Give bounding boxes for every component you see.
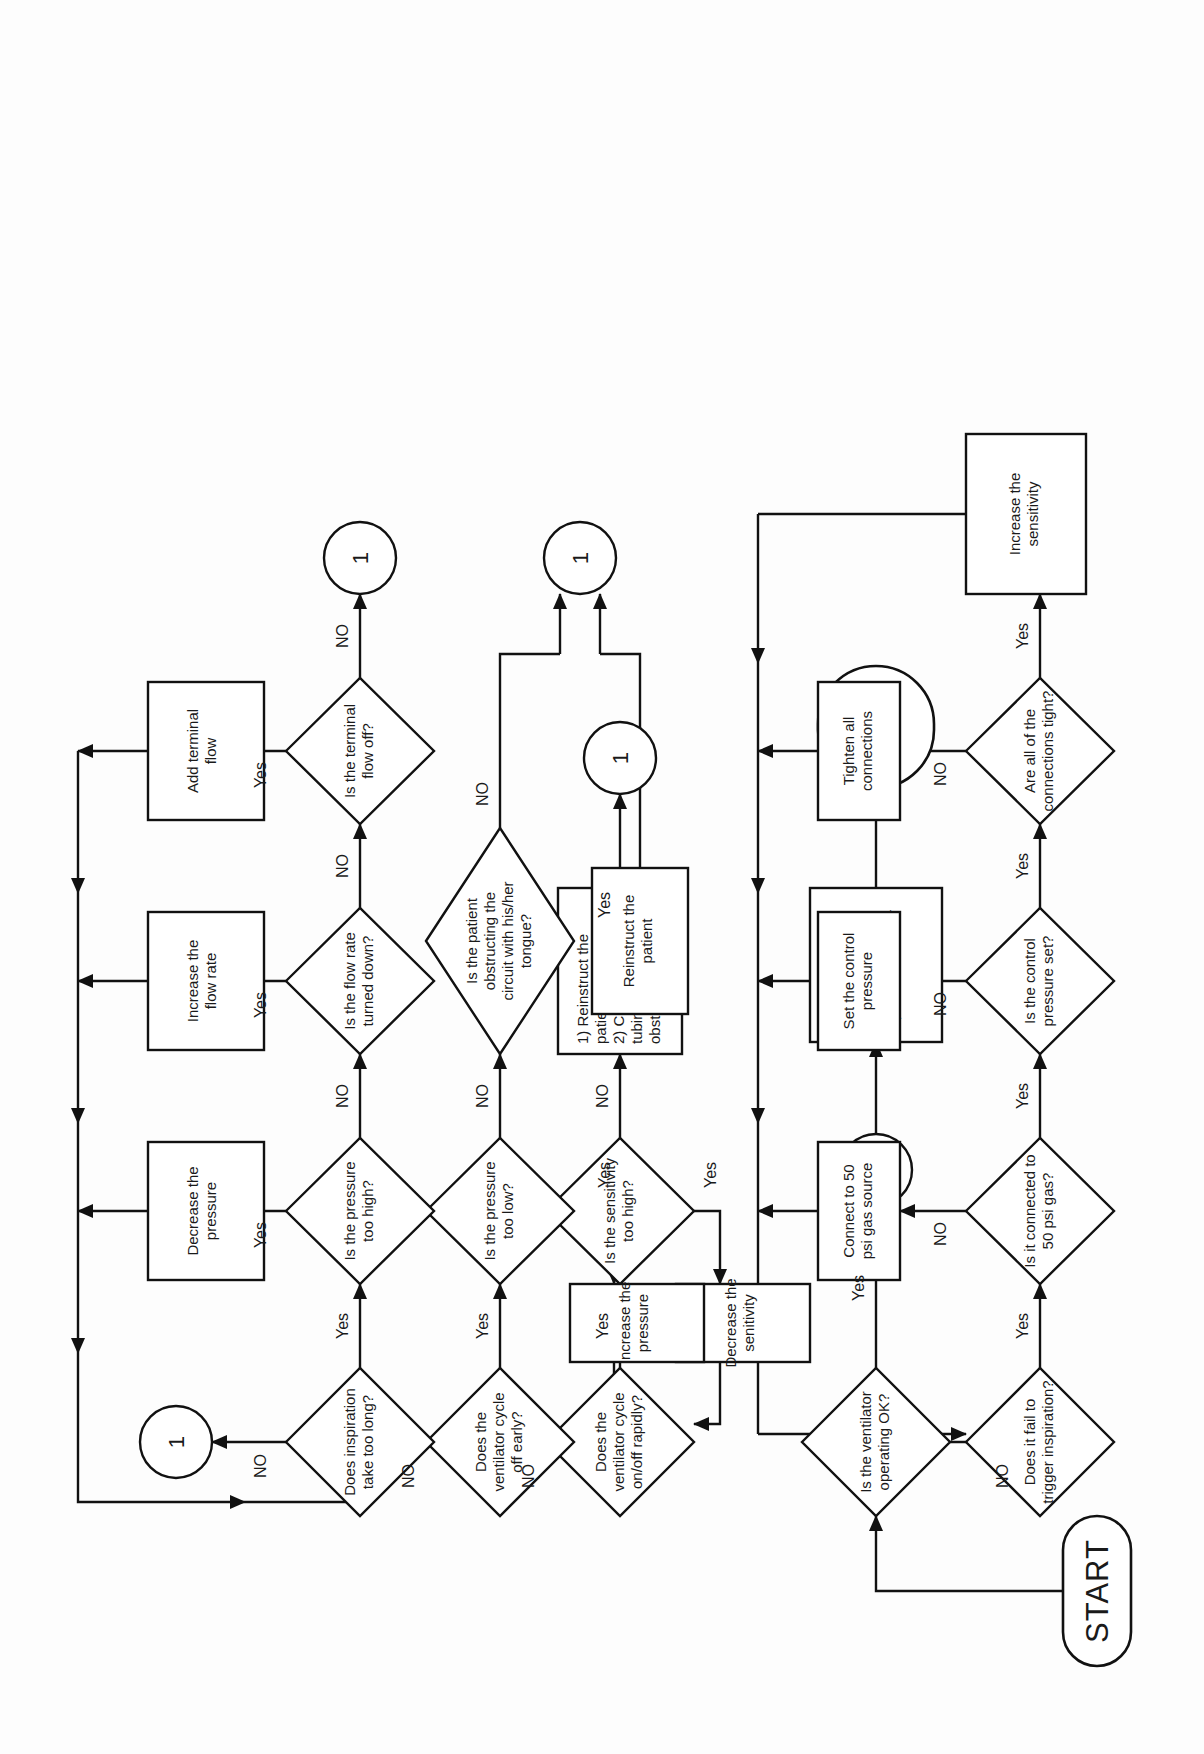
node-decpress-line2: pressure — [202, 1182, 219, 1240]
node-increase-sensitivity: Increase the sensitivity — [966, 434, 1086, 594]
node-addterm-line2: flow — [202, 738, 219, 765]
node-tighten-line1: Tighten all — [840, 717, 857, 786]
edge-label-insplong-no: NO — [252, 1454, 269, 1478]
node-connector-obstruction: 1 — [544, 522, 616, 594]
node-incpress-line2: pressure — [634, 1294, 651, 1352]
node-obstruct-line1: Is the patient — [463, 897, 480, 984]
node-connector-terminal: 1 — [324, 522, 396, 594]
node-obstruct-line3: circuit with his/her — [499, 881, 516, 1000]
edge-label-termoff-no: NO — [334, 624, 351, 648]
node-cycleearly-line2: ventilator cycle — [490, 1392, 507, 1491]
flowchart-svg: START Is the ventilator operating OK? 1 … — [0, 0, 1204, 1754]
node-connector-inspiration-label: 1 — [164, 1436, 189, 1448]
node-presslow-line2: too low? — [499, 1183, 516, 1239]
edge-label-flowdown-yes: Yes — [252, 992, 269, 1018]
node-cyclerapid-line3: on/off rapidly? — [628, 1395, 645, 1489]
node-inspiration-too-long: Does inspiration take too long? — [286, 1368, 434, 1516]
node-cyclerapid-line2: ventilator cycle — [610, 1392, 627, 1491]
node-incpress-line1: Increase the — [616, 1282, 633, 1365]
node-tighten-line2: connections — [858, 711, 875, 791]
node-decpress-line1: Decrease the — [184, 1166, 201, 1255]
node-trigger-line1: Does it fail to — [1021, 1399, 1038, 1486]
node-insplong-line2: take too long? — [359, 1395, 376, 1489]
node-connect50-line1: Connect to 50 — [840, 1164, 857, 1257]
edge-label-cyclerapid-yes: Yes — [594, 1313, 611, 1339]
node-setpress-line2: pressure — [858, 952, 875, 1010]
edge-start-to-vent-ok — [876, 1516, 1063, 1591]
node-control-pressure-set: Is the control pressure set? — [966, 908, 1114, 1054]
node-connect-50psi-source: Connect to 50 psi gas source — [818, 1142, 900, 1280]
rail-top-arrowhead-down — [230, 1495, 246, 1509]
edge-label-trigger-yes: Yes — [1014, 1313, 1031, 1339]
node-start: START — [1063, 1516, 1131, 1666]
node-pressure-low: Is the pressure too low? — [426, 1138, 574, 1284]
edge-label-connstight-yes: Yes — [1014, 623, 1031, 649]
rail-top-arrowhead-3 — [71, 1338, 85, 1354]
edge-label-presslow-yes: Yes — [596, 1162, 613, 1188]
edge-label-obstruct-no: NO — [474, 782, 491, 806]
node-decsens-line2: senitivity — [740, 1294, 757, 1352]
rail-top-arrowhead-2 — [71, 1108, 85, 1124]
node-termoff-line2: flow off? — [359, 723, 376, 779]
node-insplong-line1: Does inspiration — [341, 1388, 358, 1496]
edge-label-insplong-yes: Yes — [334, 1313, 351, 1339]
node-connstight-line2: connections tight? — [1039, 691, 1056, 812]
node-tighten-connections: Tighten all connections — [818, 682, 900, 820]
edge-label-flowdown-no: NO — [334, 854, 351, 878]
node-obstruct-line2: obstructing the — [481, 892, 498, 990]
node-connector-sensitivity: 1 — [584, 722, 656, 794]
node-obstruct-line4: tongue? — [517, 914, 534, 968]
node-connstight-line1: Are all of the — [1021, 709, 1038, 793]
edge-decsens-return — [694, 1362, 720, 1424]
node-gas50-line2: 50 psi gas? — [1039, 1173, 1056, 1250]
node-presslow-line1: Is the pressure — [481, 1161, 498, 1260]
node-reinstruct-patient: Reinstruct the patient — [592, 868, 688, 1014]
node-connector-sensitivity-label: 1 — [608, 752, 633, 764]
node-vent-ok-line2: operating OK? — [875, 1394, 892, 1491]
node-cyclerapid-line1: Does the — [592, 1412, 609, 1472]
edge-label-cycleearly-yes: Yes — [474, 1313, 491, 1339]
edge-label-vent-ok-no: NO — [994, 1464, 1011, 1488]
node-setpress-line1: Set the control — [840, 933, 857, 1030]
edge-label-cycleearly-no: NO — [400, 1464, 417, 1488]
edge-label-connstight-no: NO — [932, 762, 949, 786]
rail-arrowhead-1 — [751, 648, 765, 664]
edge-label-obstruct-yes: Yes — [596, 892, 613, 918]
node-connector-terminal-label: 1 — [348, 552, 373, 564]
node-addterm-line1: Add terminal — [184, 709, 201, 793]
rail-arrowhead-2 — [751, 878, 765, 894]
node-flowdown-line1: Is the flow rate — [341, 932, 358, 1030]
node-reinstruct-line1: Reinstruct the — [620, 895, 637, 988]
edge-label-ctrlpress-no: NO — [932, 992, 949, 1016]
node-flowdown-line2: turned down? — [359, 936, 376, 1027]
node-pressure-high: Is the pressure too high? — [286, 1138, 434, 1284]
node-ctrlpress-line2: pressure set? — [1039, 936, 1056, 1027]
node-incflow-line2: flow rate — [202, 953, 219, 1010]
rail-arrowhead-3 — [751, 1108, 765, 1124]
edge-senshigh-yes — [694, 1211, 720, 1284]
node-senshigh-line2: too high? — [619, 1180, 636, 1242]
node-termoff-line1: Is the terminal — [341, 704, 358, 798]
node-incflow-line1: Increase the — [184, 940, 201, 1023]
node-reinstruct2-line1: 1) Reinstruct the — [574, 934, 591, 1044]
node-trigger-inspiration: Does it fail to trigger inspiration? — [966, 1368, 1114, 1516]
node-increase-flow-rate: Increase the flow rate — [148, 912, 264, 1050]
node-start-label: START — [1080, 1539, 1115, 1643]
edge-label-cyclerapid-no: NO — [520, 1464, 537, 1488]
node-connected-50psi: Is it connected to 50 psi gas? — [966, 1138, 1114, 1284]
node-increase-pressure: Increase the pressure — [570, 1282, 704, 1365]
node-vent-ok-line1: Is the ventilator — [857, 1391, 874, 1493]
node-incsens-line2: sensitivity — [1024, 481, 1041, 547]
node-decsens-line1: Decrease the — [722, 1278, 739, 1367]
flowchart-page: START Is the ventilator operating OK? 1 … — [0, 0, 1204, 1754]
node-presshigh-line1: Is the pressure — [341, 1161, 358, 1260]
node-ctrlpress-line1: Is the control — [1021, 938, 1038, 1024]
node-connector-inspiration: 1 — [140, 1406, 212, 1478]
edge-obstruct-no — [500, 654, 560, 828]
edge-label-presshigh-no: NO — [334, 1084, 351, 1108]
node-incsens-line1: Increase the — [1006, 473, 1023, 556]
node-flow-rate-down: Is the flow rate turned down? — [286, 908, 434, 1054]
node-reinstruct-line2: patient — [638, 918, 655, 964]
node-cycle-off-early: Does the ventilator cycle off early? — [426, 1368, 574, 1516]
node-vent-ok: Is the ventilator operating OK? — [802, 1368, 950, 1516]
